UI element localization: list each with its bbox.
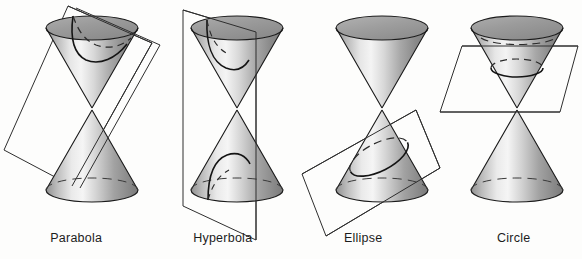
caption-parabola: Parabola bbox=[0, 228, 145, 254]
caption-circle: Circle bbox=[432, 228, 582, 254]
caption-ellipse: Ellipse bbox=[291, 228, 432, 254]
conic-sections-diagram bbox=[0, 0, 582, 259]
conic-sections-figure: Parabola Hyperbola Ellipse Circle bbox=[0, 0, 582, 259]
caption-hyperbola: Hyperbola bbox=[145, 228, 292, 254]
caption-row: Parabola Hyperbola Ellipse Circle bbox=[0, 228, 582, 254]
